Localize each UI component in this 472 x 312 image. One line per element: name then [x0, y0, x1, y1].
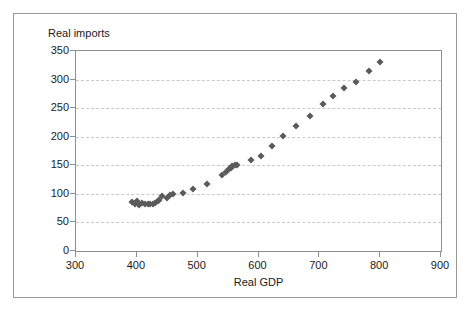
data-point [330, 92, 337, 99]
x-axis-tick-label: 300 [45, 259, 105, 271]
y-axis-tick [70, 221, 75, 222]
y-axis-tick-label: 100 [23, 187, 69, 199]
gridline [76, 165, 441, 166]
y-axis-tick [70, 250, 75, 251]
y-axis-tick-label: 300 [23, 73, 69, 85]
data-point [293, 122, 300, 129]
gridline [76, 222, 441, 223]
gridline [76, 137, 441, 138]
data-point [170, 190, 177, 197]
data-point [229, 163, 236, 170]
plot-area [75, 50, 442, 252]
gridline [76, 108, 441, 109]
data-point [158, 193, 165, 200]
y-axis-tick-label: 250 [23, 101, 69, 113]
data-point [128, 198, 135, 205]
data-point [167, 191, 174, 198]
data-points-layer [76, 51, 441, 251]
y-axis-tick-label: 50 [23, 215, 69, 227]
x-axis-tick-label: 600 [228, 259, 288, 271]
data-point [231, 162, 238, 169]
data-point [377, 58, 384, 65]
y-axis-tick [70, 107, 75, 108]
data-point [203, 180, 210, 187]
data-point [306, 112, 313, 119]
data-point [340, 84, 347, 91]
x-axis-tick-label: 500 [167, 259, 227, 271]
y-axis-tick-label: 0 [23, 244, 69, 256]
x-axis-tick [75, 252, 76, 257]
x-axis-tick [258, 252, 259, 257]
data-point [247, 157, 254, 164]
data-point [180, 190, 187, 197]
data-point [223, 168, 230, 175]
x-axis-tick [318, 252, 319, 257]
gridline [76, 194, 441, 195]
data-point [139, 199, 146, 206]
data-point [268, 142, 275, 149]
y-axis-tick [70, 50, 75, 51]
data-point [142, 200, 149, 207]
y-axis-tick [70, 79, 75, 80]
data-point [353, 79, 360, 86]
x-axis-tick-label: 700 [288, 259, 348, 271]
data-point [163, 195, 170, 202]
scatter-chart: Real imports 050100150200250300350 30040… [14, 14, 456, 297]
data-point [234, 161, 241, 168]
data-point [131, 200, 138, 207]
x-axis-tick-label: 400 [106, 259, 166, 271]
x-axis-tick [379, 252, 380, 257]
data-point [156, 196, 163, 203]
data-point [152, 199, 159, 206]
x-axis-tick [136, 252, 137, 257]
data-point [144, 201, 151, 208]
data-point [149, 201, 156, 208]
data-point [190, 185, 197, 192]
chart-figure-frame: Real imports 050100150200250300350 30040… [13, 13, 457, 298]
data-point [147, 200, 154, 207]
x-axis-tick-label: 900 [410, 259, 470, 271]
data-point [134, 197, 141, 204]
x-axis-tick-label: 800 [349, 259, 409, 271]
gridline [76, 80, 441, 81]
y-axis-tick-label: 350 [23, 44, 69, 56]
data-point [319, 101, 326, 108]
data-point [225, 165, 232, 172]
y-axis-tick [70, 136, 75, 137]
y-axis-tick-label: 200 [23, 130, 69, 142]
data-point [218, 171, 225, 178]
gridlines [76, 51, 441, 251]
y-axis-tick [70, 164, 75, 165]
x-axis-tick [440, 252, 441, 257]
x-axis-title: Real GDP [75, 276, 442, 288]
data-point [136, 202, 143, 209]
x-axis-tick [197, 252, 198, 257]
data-point [154, 198, 161, 205]
data-point [227, 164, 234, 171]
data-point [257, 152, 264, 159]
y-axis-tick [70, 193, 75, 194]
y-axis-tick-label: 150 [23, 158, 69, 170]
data-point [366, 67, 373, 74]
data-point [280, 133, 287, 140]
y-axis-labels: 050100150200250300350 [14, 14, 69, 297]
